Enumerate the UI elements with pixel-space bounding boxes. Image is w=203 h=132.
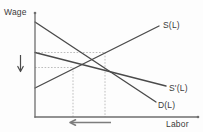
supply-curve-label: S(L) (163, 20, 180, 30)
y-axis-cap (34, 12, 37, 15)
labor-left-arrow-icon (70, 120, 111, 125)
y-axis-label: Wage (4, 7, 27, 17)
demand-curve-label: D(L) (158, 100, 175, 110)
demand-curve (35, 22, 156, 102)
wage-down-arrow-icon (18, 55, 23, 72)
guide-lines (35, 53, 105, 118)
x-axis-cap (197, 116, 200, 119)
labor-market-diagram: Wage Labor S(L) S'(L) D(L) (0, 0, 203, 132)
x-axis-label: Labor (166, 119, 189, 129)
supply-shifted-curve (35, 53, 166, 87)
supply-shifted-curve-label: S'(L) (169, 83, 188, 93)
